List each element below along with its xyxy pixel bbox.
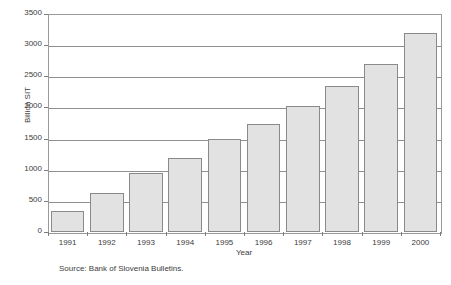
x-tick-label-1997: 1997 — [294, 238, 312, 248]
y-tick-label: 1000 — [24, 164, 42, 174]
x-axis-tick — [283, 232, 284, 236]
x-tick-label-1996: 1996 — [255, 238, 273, 248]
x-axis-title: Year — [48, 248, 440, 257]
y-axis-tick: 500 — [0, 201, 48, 202]
bar-1993 — [129, 173, 163, 232]
x-axis-tick — [244, 232, 245, 236]
bar-1999 — [364, 64, 398, 232]
x-axis-tick — [362, 232, 363, 236]
x-axis-tick — [87, 232, 88, 236]
bar-chart-figure: 0500100015002000250030003500 Billion SIT… — [0, 0, 451, 285]
x-tick-label-2000: 2000 — [411, 238, 429, 248]
x-tick-label-1992: 1992 — [98, 238, 116, 248]
y-axis-tick: 0 — [0, 232, 48, 233]
y-axis-title: Billion SIT — [23, 70, 32, 140]
x-axis-tick — [205, 232, 206, 236]
x-axis-tick — [48, 232, 49, 236]
x-tick-label-1998: 1998 — [333, 238, 351, 248]
x-axis-tick — [322, 232, 323, 236]
x-tick-label-1999: 1999 — [372, 238, 390, 248]
y-axis-tick: 3000 — [0, 45, 48, 46]
bar-2000 — [404, 33, 438, 232]
x-tick-label-1994: 1994 — [176, 238, 194, 248]
x-axis-tick — [440, 232, 441, 236]
bar-1992 — [90, 193, 124, 232]
x-axis-tick — [401, 232, 402, 236]
x-axis-tick — [126, 232, 127, 236]
x-tick-label-1993: 1993 — [137, 238, 155, 248]
bar-1994 — [168, 158, 202, 232]
bar-series — [48, 14, 440, 232]
x-axis-tick — [166, 232, 167, 236]
source-note: Source: Bank of Slovenia Bulletins. — [59, 263, 184, 274]
y-axis-tick: 1000 — [0, 170, 48, 171]
bar-1995 — [208, 139, 242, 232]
y-tick-label: 3500 — [24, 8, 42, 18]
x-tick-label-1995: 1995 — [215, 238, 233, 248]
bar-1997 — [286, 106, 320, 232]
bar-1998 — [325, 86, 359, 232]
x-tick-label-1991: 1991 — [59, 238, 77, 248]
y-axis-tick: 3500 — [0, 14, 48, 15]
y-tick-label: 0 — [38, 226, 42, 236]
bar-1996 — [247, 124, 281, 232]
y-tick-label: 500 — [29, 195, 42, 205]
y-tick-label: 3000 — [24, 39, 42, 49]
bar-1991 — [51, 211, 85, 232]
